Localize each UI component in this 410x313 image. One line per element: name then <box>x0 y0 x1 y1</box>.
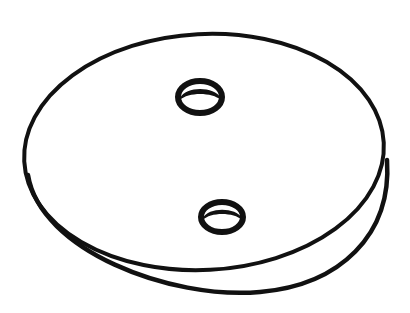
upper-hole-icon <box>178 81 222 113</box>
lower-hole-icon <box>201 202 243 232</box>
disc-drawing <box>0 0 410 313</box>
